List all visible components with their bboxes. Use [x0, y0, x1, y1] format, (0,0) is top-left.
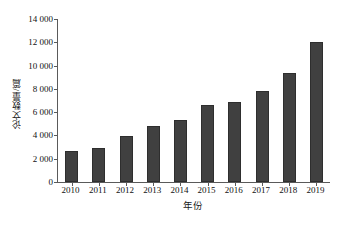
y-tick-mark	[54, 112, 58, 113]
y-tick-mark	[54, 159, 58, 160]
bar	[174, 120, 187, 182]
x-tick-label: 2016	[225, 184, 243, 196]
x-tick-label: 2011	[89, 184, 107, 196]
bar	[256, 91, 269, 182]
x-axis-title: 年份	[57, 200, 329, 212]
bar	[65, 151, 78, 182]
y-tick-mark	[54, 135, 58, 136]
y-tick-label: 12 000	[28, 38, 53, 47]
y-tick-mark	[54, 19, 58, 20]
y-tick-label: 8 000	[33, 84, 53, 93]
x-tick-label: 2019	[306, 184, 324, 196]
y-tick-label: 4 000	[33, 131, 53, 140]
y-tick-mark	[54, 42, 58, 43]
bar-series	[58, 19, 330, 182]
x-tick-label: 2010	[62, 184, 80, 196]
bar	[92, 148, 105, 182]
x-tick-label: 2013	[143, 184, 161, 196]
plot-area	[57, 19, 330, 183]
x-tick-label: 2014	[170, 184, 188, 196]
x-tick-label: 2012	[116, 184, 134, 196]
x-tick-label: 2017	[252, 184, 270, 196]
y-tick-mark	[54, 182, 58, 183]
y-tick-label: 10 000	[28, 61, 53, 70]
bar	[147, 126, 160, 182]
x-axis-tick-labels: 2010201120122013201420152016201720182019	[57, 184, 329, 198]
bar-chart-figure: 论文数量/篇 02 0004 0006 0008 00010 00012 000…	[0, 0, 338, 229]
x-tick-label: 2015	[198, 184, 216, 196]
bar	[201, 105, 214, 182]
y-axis-tick-labels: 02 0004 0006 0008 00010 00012 00014 000	[22, 12, 57, 188]
y-tick-mark	[54, 89, 58, 90]
bar	[283, 73, 296, 182]
bar	[120, 136, 133, 182]
y-tick-label: 0	[49, 178, 54, 187]
y-tick-label: 14 000	[28, 15, 53, 24]
bar	[310, 42, 323, 182]
y-tick-mark	[54, 66, 58, 67]
bar	[228, 102, 241, 182]
x-tick-label: 2018	[279, 184, 297, 196]
y-tick-label: 2 000	[33, 154, 53, 163]
y-tick-label: 6 000	[33, 108, 53, 117]
y-axis-title: 论文数量/篇	[9, 56, 23, 152]
